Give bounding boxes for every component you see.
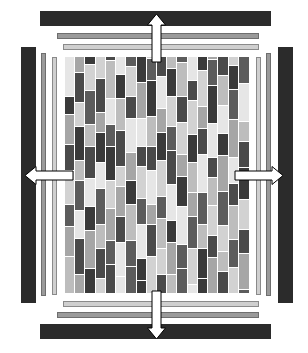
block-cell xyxy=(116,131,125,167)
block-cell xyxy=(147,59,156,81)
block-cell xyxy=(96,163,105,189)
block-column xyxy=(188,57,198,294)
block-cell xyxy=(157,161,166,197)
block-cell xyxy=(188,81,197,101)
block-cell xyxy=(157,219,166,249)
block-cell xyxy=(239,290,249,294)
block-cell xyxy=(85,91,94,125)
block-cell xyxy=(177,63,186,97)
block-cell xyxy=(116,75,125,99)
block-cell xyxy=(137,83,146,119)
right-rail-inner xyxy=(256,57,261,295)
block-cell xyxy=(65,257,74,294)
block-cell xyxy=(239,168,249,200)
block-cell xyxy=(239,142,249,168)
block-cell xyxy=(96,225,105,249)
block-cell xyxy=(218,192,227,226)
block-column xyxy=(239,57,249,294)
bottom-rail-inner xyxy=(63,301,259,307)
block-cell xyxy=(218,57,227,76)
block-cell xyxy=(147,225,156,257)
block-cell xyxy=(106,181,115,209)
block-cell xyxy=(229,120,238,158)
block-cell xyxy=(75,275,84,294)
left-frame-bar xyxy=(21,47,36,303)
block-cell xyxy=(218,156,227,192)
block-cell xyxy=(85,125,94,147)
block-cell xyxy=(188,193,197,217)
block-cell xyxy=(85,207,94,231)
block-cell xyxy=(126,97,135,119)
block-cell xyxy=(96,57,105,79)
block-cell xyxy=(208,258,217,294)
block-cell xyxy=(126,181,135,205)
block-cell xyxy=(167,69,176,97)
block-column xyxy=(85,57,95,294)
block-cell xyxy=(85,57,94,65)
block-cell xyxy=(198,155,207,193)
block-cell xyxy=(126,153,135,181)
block-cell xyxy=(198,129,207,155)
block-cell xyxy=(75,181,84,211)
block-cell xyxy=(218,134,227,156)
block-cell xyxy=(239,200,249,230)
block-cell xyxy=(177,123,186,155)
block-column xyxy=(157,57,167,294)
block-cell xyxy=(239,254,249,290)
left-rail-inner xyxy=(52,57,57,295)
block-column xyxy=(208,57,218,294)
block-column xyxy=(65,57,75,294)
block-cell xyxy=(167,127,176,151)
block-cell xyxy=(177,269,186,294)
block-column xyxy=(177,57,187,294)
block-cell xyxy=(137,57,146,83)
block-cell xyxy=(137,147,146,167)
block-cell xyxy=(126,67,135,97)
block-cell xyxy=(157,197,166,219)
top-frame-bar xyxy=(40,11,271,26)
block-column xyxy=(218,57,228,294)
block-cell xyxy=(75,239,84,275)
block-cell xyxy=(137,167,146,199)
block-cell xyxy=(198,279,207,294)
block-cell xyxy=(167,97,176,127)
block-cell xyxy=(218,226,227,252)
block-cell xyxy=(157,109,166,133)
block-cell xyxy=(116,57,125,75)
block-cell xyxy=(177,177,186,207)
block-cell xyxy=(75,127,84,161)
block-cell xyxy=(116,277,125,294)
block-cell xyxy=(208,124,217,158)
block-cell xyxy=(75,57,84,73)
block-cell xyxy=(198,57,207,71)
block-cell xyxy=(157,275,166,294)
block-cell xyxy=(157,57,166,77)
block-column xyxy=(167,57,177,294)
block-cell xyxy=(208,86,217,124)
block-cell xyxy=(229,206,238,240)
block-cell xyxy=(229,57,238,66)
bottom-rail-outer xyxy=(57,312,259,318)
block-cell xyxy=(106,61,115,99)
block-cell xyxy=(157,133,166,161)
block-column xyxy=(198,57,208,294)
block-cell xyxy=(177,97,186,123)
block-cell xyxy=(198,225,207,249)
block-cell xyxy=(65,227,74,257)
block-column xyxy=(75,57,85,294)
block-cell xyxy=(208,236,217,258)
block-cell xyxy=(137,119,146,147)
block-column xyxy=(229,57,239,294)
block-cell xyxy=(96,133,105,163)
block-cell xyxy=(126,119,135,153)
block-cell xyxy=(188,285,197,294)
block-column xyxy=(96,57,106,294)
block-cell xyxy=(126,205,135,241)
block-cell xyxy=(167,243,176,275)
block-cell xyxy=(116,99,125,131)
block-cell xyxy=(177,207,186,245)
block-cell xyxy=(167,151,176,185)
block-cell xyxy=(229,184,238,206)
block-cell xyxy=(198,71,207,107)
block-cell xyxy=(96,113,105,133)
